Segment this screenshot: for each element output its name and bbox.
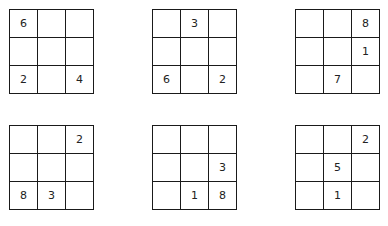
grid-cell: 2 [10,66,38,94]
grid-cell [38,126,66,154]
grid-cell: 8 [10,182,38,210]
grid-cell [153,38,181,66]
grid-cell [296,38,324,66]
puzzle-grid-1: 6 2 4 [9,9,94,94]
puzzle-grid-4: 2 8 3 [9,125,94,210]
grid-cell: 6 [153,66,181,94]
grid-cell: 8 [352,10,380,38]
grid-cell [153,10,181,38]
grid-cell [324,10,352,38]
grid-cell [352,66,380,94]
grid-cell [352,154,380,182]
grid-cell [153,126,181,154]
grid-cell: 2 [66,126,94,154]
grid-cell: 3 [209,154,237,182]
grid-cell [38,66,66,94]
puzzle-grid-5: 3 1 8 [152,125,237,210]
grid-cell [66,154,94,182]
puzzle-grid-2: 3 6 2 [152,9,237,94]
grid-cell [324,38,352,66]
grid-cell: 5 [324,154,352,182]
grid-cell: 2 [209,66,237,94]
grid-cell: 2 [352,126,380,154]
grid-cell: 3 [181,10,209,38]
grid-cell [153,182,181,210]
grid-cell: 6 [10,10,38,38]
grid-cell [38,10,66,38]
grid-cell [10,154,38,182]
grid-cell [66,10,94,38]
grid-cell [181,154,209,182]
grid-cell [181,126,209,154]
grid-cell [209,126,237,154]
grid-cell: 1 [352,38,380,66]
grid-cell: 8 [209,182,237,210]
grid-cell [352,182,380,210]
grid-cell: 7 [324,66,352,94]
grid-cell [324,126,352,154]
grid-cell [209,10,237,38]
grid-cell [38,154,66,182]
grid-cell [296,66,324,94]
grid-cell: 3 [38,182,66,210]
grid-cell [153,154,181,182]
grid-cell [38,38,66,66]
grid-cell: 1 [181,182,209,210]
grid-cell [10,38,38,66]
grid-cell [209,38,237,66]
grid-cell [66,182,94,210]
grid-cell: 1 [324,182,352,210]
grid-cell [66,38,94,66]
grid-cell [296,126,324,154]
puzzle-grid-3: 8 1 7 [295,9,380,94]
grid-cell: 4 [66,66,94,94]
grid-cell [181,38,209,66]
grid-cell [181,66,209,94]
grid-cell [296,10,324,38]
puzzle-grid-6: 2 5 1 [295,125,380,210]
grid-cell [10,126,38,154]
grid-cell [296,182,324,210]
grid-cell [296,154,324,182]
